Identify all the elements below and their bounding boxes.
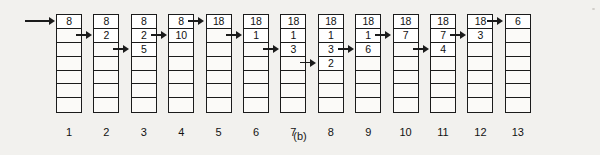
stack-cell-empty [244,43,268,57]
stack-group-5: 185 [206,14,232,113]
stack-cell-empty [356,71,380,85]
stack-group-4: 8104 [168,14,194,113]
stack-cell-value: 2 [94,29,118,43]
stack-cell-empty [506,71,530,85]
stack-cell-empty [394,71,418,85]
stack-cell-empty [94,71,118,85]
stack-cell-value: 1 [281,29,305,43]
stack-cell-empty [356,57,380,71]
stack-cell-empty [319,98,343,112]
stack-cell-empty [132,71,156,85]
stack-cell-value: 2 [319,57,343,71]
arrow-head [385,31,391,39]
stack-cell-empty [394,84,418,98]
stack-cell-empty [207,57,231,71]
stack-7: 1813 [280,14,306,113]
stack-cell-empty [57,71,81,85]
stack-cell-empty [356,84,380,98]
stack-cell-empty [94,43,118,57]
stack-cell-empty [94,98,118,112]
scan-speck [592,8,595,10]
stack-4: 810 [168,14,194,113]
stack-8: 18132 [318,14,344,113]
arrow-head [86,31,92,39]
stack-1: 8 [56,14,82,113]
stack-cell-value: 18 [431,15,455,29]
arrow-head [423,45,429,53]
stack-cell-empty [281,71,305,85]
stack-10: 187 [393,14,419,113]
stack-cell-empty [319,84,343,98]
stack-cell-empty [468,57,492,71]
stack-cell-empty [431,98,455,112]
arrow-head [310,59,316,67]
stack-cell-empty [394,43,418,57]
stack-cell-empty [468,43,492,57]
stack-5: 18 [206,14,232,113]
stack-cell-empty [132,84,156,98]
stack-cell-empty [431,57,455,71]
stack-cell-empty [319,71,343,85]
stack-cell-empty [394,57,418,71]
arrow-head [161,31,167,39]
stack-cell-empty [207,98,231,112]
stack-cell-value: 6 [506,15,530,29]
stack-cell-empty [468,84,492,98]
stack-cell-empty [207,71,231,85]
stack-cell-empty [281,84,305,98]
stack-cell-empty [506,29,530,43]
stack-cell-empty [207,84,231,98]
stack-cell-empty [431,84,455,98]
stack-cell-value: 3 [468,29,492,43]
stack-group-6: 1816 [243,14,269,113]
arrow-head [460,31,466,39]
stack-cell-empty [281,98,305,112]
stack-cell-value: 18 [356,15,380,29]
stack-cell-empty [207,29,231,43]
stack-cell-value: 5 [132,43,156,57]
arrow-head [273,45,279,53]
stack-cell-value: 7 [394,29,418,43]
stack-cell-empty [506,57,530,71]
stack-cell-empty [169,71,193,85]
stack-cell-empty [57,84,81,98]
stack-group-12: 18312 [467,14,493,113]
stack-group-2: 822 [93,14,119,113]
stack-group-11: 187411 [430,14,456,113]
stack-cell-value: 18 [394,15,418,29]
stack-cell-value: 6 [356,43,380,57]
stack-cell-value: 18 [319,15,343,29]
stack-cell-value: 1 [244,29,268,43]
stack-group-8: 181328 [318,14,344,113]
stack-11: 1874 [430,14,456,113]
stack-9: 1816 [355,14,381,113]
stack-cell-empty [244,71,268,85]
stack-cell-value: 1 [319,29,343,43]
stack-cell-empty [57,57,81,71]
arrow-head [497,17,503,25]
stack-cell-value: 8 [57,15,81,29]
stack-group-1: 81 [56,14,82,113]
stack-cell-empty [506,84,530,98]
stack-group-3: 8253 [131,14,157,113]
stack-cell-empty [57,29,81,43]
stack-cell-value: 7 [431,29,455,43]
stack-cell-empty [132,98,156,112]
stack-cell-empty [57,98,81,112]
stack-cell-value: 3 [319,43,343,57]
stack-cell-value: 18 [244,15,268,29]
stack-cell-value: 4 [431,43,455,57]
stack-cell-empty [94,57,118,71]
stack-cell-value: 8 [94,15,118,29]
arrow-head [49,17,55,25]
stack-group-7: 18137 [280,14,306,113]
stack-cell-empty [356,98,380,112]
stack-12: 183 [467,14,493,113]
stack-sequence-figure: 8182282538104185181618137181328181691871… [0,0,600,155]
stack-group-9: 18169 [355,14,381,113]
stack-cell-empty [506,98,530,112]
arrow-head [198,17,204,25]
arrow-head [236,31,242,39]
stack-cell-empty [169,98,193,112]
figure-caption: (b) [0,130,600,142]
